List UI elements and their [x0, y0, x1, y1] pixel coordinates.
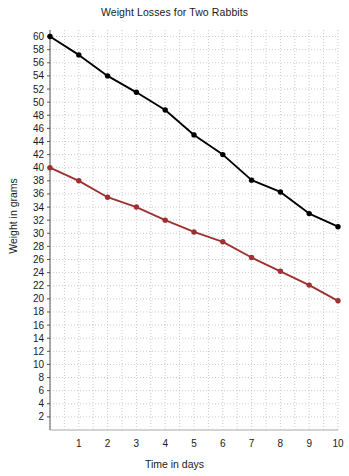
x-axis-tick-label: 6 [220, 438, 226, 449]
data-point-marker [76, 178, 81, 183]
y-axis-tick-label: 46 [33, 123, 45, 134]
y-axis-tick-label: 58 [33, 44, 45, 55]
y-axis-tick-label: 22 [33, 280, 45, 291]
y-axis-tick-label: 30 [33, 228, 45, 239]
data-point-marker [335, 298, 340, 303]
data-point-marker [307, 282, 312, 287]
y-axis-tick-label: 56 [33, 57, 45, 68]
data-point-marker [134, 204, 139, 209]
y-axis-tick-label: 54 [33, 70, 45, 81]
x-axis-tick-label: 10 [332, 438, 344, 449]
y-axis-tick-label: 60 [33, 31, 45, 42]
y-axis-tick-label: 32 [33, 215, 45, 226]
data-point-marker [220, 239, 225, 244]
chart-container: Weight Losses for Two Rabbits 2468101214… [0, 0, 349, 476]
data-point-marker [47, 34, 52, 39]
x-axis-tick-label: 9 [306, 438, 312, 449]
data-point-marker [76, 52, 81, 57]
y-axis-tick-label: 12 [33, 346, 45, 357]
data-point-marker [249, 177, 254, 182]
y-axis-title: Weight in grams [7, 156, 19, 276]
x-axis-tick-label: 7 [249, 438, 255, 449]
y-axis-tick-label: 52 [33, 84, 45, 95]
x-axis-tick-label: 3 [134, 438, 140, 449]
data-point-marker [105, 73, 110, 78]
y-axis-tick-label: 10 [33, 359, 45, 370]
y-axis-tick-label: 40 [33, 162, 45, 173]
y-axis-tick-label: 38 [33, 175, 45, 186]
data-point-marker [335, 224, 340, 229]
y-axis-tick-label: 24 [33, 267, 45, 278]
y-axis-tick-label: 48 [33, 110, 45, 121]
plot-area: 2468101214161820222426283032343638404244… [0, 0, 349, 476]
data-point-marker [163, 107, 168, 112]
x-axis-tick-labels: 12345678910 [76, 438, 344, 449]
y-axis-tick-label: 14 [33, 333, 45, 344]
y-axis-tick-labels: 2468101214161820222426283032343638404244… [33, 31, 45, 422]
data-point-marker [278, 189, 283, 194]
y-axis-tick-label: 28 [33, 241, 45, 252]
data-point-marker [278, 269, 283, 274]
data-point-marker [163, 217, 168, 222]
x-axis-tick-label: 5 [191, 438, 197, 449]
data-point-marker [249, 255, 254, 260]
data-point-marker [191, 132, 196, 137]
data-point-marker [191, 229, 196, 234]
y-axis-tick-label: 8 [38, 372, 44, 383]
y-axis-tick-label: 34 [33, 202, 45, 213]
y-axis-tick-label: 16 [33, 320, 45, 331]
y-axis-tick-label: 2 [38, 411, 44, 422]
y-axis-tick-label: 42 [33, 149, 45, 160]
x-axis-tick-label: 2 [105, 438, 111, 449]
y-axis-tick-label: 36 [33, 188, 45, 199]
data-point-marker [105, 195, 110, 200]
data-point-marker [307, 211, 312, 216]
data-point-marker [220, 152, 225, 157]
x-axis-tick-label: 1 [76, 438, 82, 449]
y-axis-tick-label: 18 [33, 306, 45, 317]
x-axis-title: Time in days [0, 458, 349, 470]
y-axis-tick-label: 50 [33, 97, 45, 108]
data-point-marker [134, 90, 139, 95]
y-axis-tick-label: 6 [38, 385, 44, 396]
x-axis-tick-label: 8 [278, 438, 284, 449]
data-point-marker [47, 165, 52, 170]
y-axis-tick-label: 20 [33, 293, 45, 304]
x-axis-tick-label: 4 [162, 438, 168, 449]
y-axis-tick-label: 4 [38, 398, 44, 409]
y-axis-tick-label: 26 [33, 254, 45, 265]
y-axis-tick-label: 44 [33, 136, 45, 147]
